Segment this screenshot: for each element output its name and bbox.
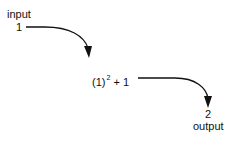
expression-rest: + 1 [110,76,129,88]
input-value: 1 [16,22,22,33]
input-label: input [7,9,31,20]
expression-base: (1) [92,76,105,88]
expression-to-output-arrow-icon [138,78,212,108]
expression-exponent: 2 [106,74,110,81]
expression: (1)2 + 1 [92,77,129,89]
output-value: 2 [205,109,211,120]
function-diagram: input 1 (1)2 + 1 2 output [0,0,232,141]
input-to-expression-arrow-icon [26,27,92,58]
output-label: output [193,121,224,132]
